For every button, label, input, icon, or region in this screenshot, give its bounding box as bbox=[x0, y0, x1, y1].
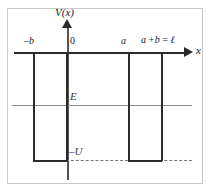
energy-level-label: E bbox=[70, 90, 77, 102]
potential-well-figure: V(x) x E –U –b 0 a a +b = ℓ bbox=[0, 0, 213, 192]
energy-level-line bbox=[12, 105, 192, 106]
well-2-left-wall bbox=[128, 52, 130, 161]
well-1-left-wall bbox=[33, 52, 35, 161]
well-1-bottom bbox=[33, 160, 67, 162]
well-1-right-wall bbox=[66, 52, 68, 161]
well-2-bottom bbox=[128, 160, 162, 162]
well-depth-label: –U bbox=[69, 145, 82, 157]
x-tick-label-minus-b: –b bbox=[24, 35, 34, 46]
y-axis-label: V(x) bbox=[55, 6, 74, 18]
y-axis-arrow-icon bbox=[62, 19, 72, 28]
x-axis-arrow-icon bbox=[184, 47, 193, 57]
x-tick-label-origin: 0 bbox=[70, 35, 75, 46]
well-2-right-wall bbox=[161, 52, 163, 161]
x-tick-label-a: a bbox=[121, 35, 126, 46]
x-tick-label-period: a +b = ℓ bbox=[141, 34, 175, 45]
x-axis-label: x bbox=[196, 44, 201, 56]
